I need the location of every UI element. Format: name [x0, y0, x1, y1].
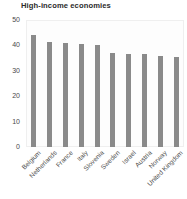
- y-axis-tick-label: 30: [12, 67, 20, 75]
- y-axis-tick-label: 50: [12, 16, 20, 24]
- bar: [126, 54, 131, 147]
- y-axis: 01020304050: [0, 20, 23, 147]
- bar-chart-figure: High-income economies 01020304050 Belgiu…: [0, 0, 187, 199]
- y-axis-tick-label: 40: [12, 41, 20, 49]
- bar: [110, 53, 115, 147]
- x-axis: BelgiumNetherlandsFranceItalySloveniaSwe…: [26, 147, 187, 199]
- y-axis-tick-label: 10: [12, 118, 20, 126]
- bar: [47, 42, 52, 147]
- chart-title: High-income economies: [21, 1, 111, 11]
- bar: [79, 44, 84, 147]
- y-axis-tick-label: 20: [12, 92, 20, 100]
- bar: [31, 35, 36, 147]
- bar: [142, 54, 147, 147]
- bar: [95, 45, 100, 147]
- bar: [158, 56, 163, 147]
- bar: [174, 57, 179, 147]
- y-axis-tick-label: 0: [16, 143, 20, 151]
- bars-container: [26, 20, 184, 147]
- bar: [63, 43, 68, 147]
